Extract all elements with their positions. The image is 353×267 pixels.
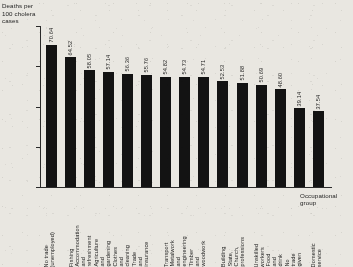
x-axis-category-label: Accommodation and refreshment (75, 226, 94, 267)
bar-value-label: 64.52 (68, 40, 74, 55)
x-axis-category-label: Agriculture and gardening (94, 239, 113, 267)
bar-value-label: 70.64 (49, 28, 55, 43)
x-axis-category-label: Unskilled workers (252, 243, 264, 267)
bars-layer: 70.6464.5258.0557.1456.3655.7654.8254.73… (44, 26, 330, 187)
bar-value-label: 55.76 (144, 58, 150, 73)
x-axis-category-label: State, Church, professions (227, 237, 246, 267)
y-axis-tick-mark (36, 187, 40, 188)
x-axis-category-label: Metalwork and engineering (170, 237, 189, 267)
bar (65, 57, 76, 187)
x-axis-category-label: No trade given (284, 253, 303, 267)
bar (313, 111, 324, 187)
bar-value-label: 51.88 (240, 66, 246, 81)
bar-slot: 56.36 (120, 26, 136, 187)
bar-slot: 54.73 (177, 26, 193, 187)
bar-value-label: 57.14 (106, 55, 112, 70)
x-axis-title: Occupational group (300, 192, 352, 207)
bar-value-label: 39.14 (297, 91, 303, 106)
bar-value-label: 54.73 (182, 60, 188, 75)
bar-slot: 39.14 (292, 26, 308, 187)
bar-value-label: 56.36 (125, 57, 131, 72)
x-axis-category-slot: No trade (unemployed) (44, 192, 60, 267)
bar (237, 83, 248, 187)
bar-slot: 54.82 (158, 26, 174, 187)
bar-value-label: 52.53 (220, 65, 226, 80)
x-axis-category-labels: No trade (unemployed)FishingAccommodatio… (44, 192, 330, 267)
bar-slot: 70.64 (44, 26, 60, 187)
bar-slot: 37.54 (311, 26, 327, 187)
bar (217, 81, 228, 187)
x-axis-category-label: Timber and woodwork (189, 241, 208, 267)
bar (103, 72, 114, 187)
bar-slot: 52.53 (215, 26, 231, 187)
x-axis-category-slot: Timber and woodwork (196, 192, 212, 267)
x-axis-line (40, 187, 332, 188)
x-axis-category-slot: State, Church, professions (235, 192, 251, 267)
bar-slot: 51.88 (235, 26, 251, 187)
bar-slot: 50.69 (254, 26, 270, 187)
y-axis-title: Deaths per 100 cholera cases (2, 2, 80, 25)
bar (198, 77, 209, 187)
bar-chart-figure: Deaths per 100 cholera cases 020406080 7… (0, 0, 353, 267)
bar-value-label: 54.71 (201, 60, 207, 75)
bar (256, 85, 267, 187)
bar (294, 108, 305, 187)
bar-slot: 58.05 (82, 26, 98, 187)
bar-slot: 57.14 (101, 26, 117, 187)
bar-slot: 64.52 (63, 26, 79, 187)
bar (141, 75, 152, 187)
bar-value-label: 37.54 (316, 95, 322, 110)
x-axis-category-label: Trade and insurance (132, 242, 151, 267)
bar (179, 77, 190, 187)
x-axis-category-label: No trade (unemployed) (43, 232, 55, 267)
bar-slot: 54.71 (196, 26, 212, 187)
bar (160, 77, 171, 187)
bar-value-label: 54.82 (163, 60, 169, 75)
x-axis-category-label: Food and drink (265, 254, 284, 267)
x-axis-category-label: Transport (163, 242, 169, 267)
x-axis-category-label: Domestic service (309, 243, 321, 267)
bar-slot: 48.60 (273, 26, 289, 187)
bar (46, 45, 57, 187)
x-axis-category-label: Fishing (68, 248, 74, 267)
bar (122, 74, 133, 187)
bar-value-label: 48.60 (278, 72, 284, 87)
bar-value-label: 58.05 (87, 53, 93, 68)
x-axis-category-slot: Trade and insurance (139, 192, 155, 267)
bar (275, 89, 286, 187)
x-axis-category-label: Building (220, 246, 226, 267)
bar-slot: 55.76 (139, 26, 155, 187)
bar (84, 70, 95, 187)
x-axis-category-label: Clothes and cleaning (113, 245, 132, 267)
bar-value-label: 50.69 (259, 68, 265, 83)
